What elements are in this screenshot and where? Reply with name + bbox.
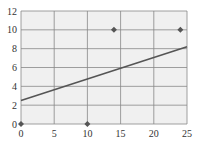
x-axis-ticks: 0510152025 xyxy=(19,128,193,139)
y-tick-label: 0 xyxy=(12,119,17,130)
x-tick-label: 5 xyxy=(52,128,57,139)
y-tick-label: 6 xyxy=(12,62,17,73)
x-tick-label: 10 xyxy=(82,128,92,139)
y-tick-label: 10 xyxy=(7,24,17,35)
scatter-chart: 024681012 0510152025 xyxy=(0,0,201,148)
x-tick-label: 25 xyxy=(182,128,192,139)
x-tick-label: 15 xyxy=(116,128,126,139)
x-tick-label: 0 xyxy=(19,128,24,139)
y-tick-label: 4 xyxy=(12,81,17,92)
y-tick-label: 12 xyxy=(7,6,17,17)
y-tick-label: 2 xyxy=(12,100,17,111)
y-axis-ticks: 024681012 xyxy=(7,6,17,130)
x-tick-label: 20 xyxy=(149,128,159,139)
y-tick-label: 8 xyxy=(12,43,17,54)
